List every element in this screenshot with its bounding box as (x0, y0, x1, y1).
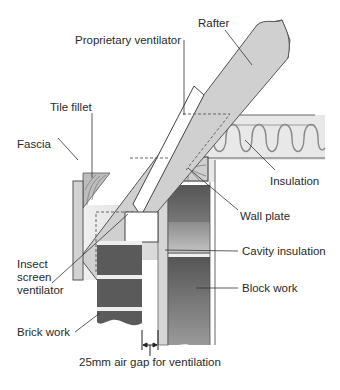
label-cavity-insulation: Cavity insulation (242, 245, 326, 258)
label-insulation: Insulation (270, 175, 319, 188)
label-wall-plate: Wall plate (240, 210, 290, 223)
label-rafter: Rafter (198, 17, 229, 30)
label-tile-fillet: Tile fillet (50, 101, 92, 114)
air-gap-dimension (142, 330, 158, 356)
fascia-board (73, 181, 83, 280)
label-proprietary-ventilator: Proprietary ventilator (75, 34, 181, 47)
block-wall (158, 182, 210, 345)
insect-screen-ventilator (125, 212, 158, 242)
label-air-gap: 25mm air gap for ventilation (79, 356, 221, 369)
tile-fillet (83, 173, 110, 208)
label-insect-screen-ventilator: Insect screen ventilator (17, 258, 64, 297)
label-brick-work: Brick work (17, 326, 70, 339)
brick-work (97, 241, 142, 325)
label-block-work: Block work (242, 282, 298, 295)
label-fascia: Fascia (17, 138, 51, 151)
